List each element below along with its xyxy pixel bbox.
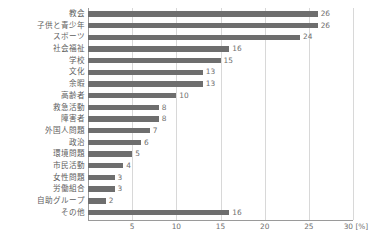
- category-label: スポーツ: [0, 31, 85, 43]
- bar-row: その他16: [0, 207, 371, 219]
- bar-container: 4: [88, 160, 131, 172]
- bar-value-label: 3: [118, 183, 123, 195]
- bar: [88, 70, 203, 75]
- bar-container: 15: [88, 55, 233, 67]
- bar: [88, 186, 115, 191]
- bar: [88, 128, 150, 133]
- x-tick-label-25: 25: [304, 222, 313, 231]
- bar: [88, 210, 229, 215]
- category-label: 自助グループ: [0, 195, 85, 207]
- category-label: 余暇: [0, 78, 85, 90]
- category-label: 学校: [0, 55, 85, 67]
- bar-value-label: 24: [303, 31, 312, 43]
- bar-value-label: 4: [126, 160, 131, 172]
- bar-container: 3: [88, 172, 122, 184]
- x-axis-line: [88, 220, 353, 221]
- category-label: 障害者: [0, 113, 85, 125]
- x-tick-label-15: 15: [216, 222, 225, 231]
- bar-container: 16: [88, 43, 242, 55]
- bar-row: 政治6: [0, 137, 371, 149]
- bar: [88, 23, 318, 28]
- bar-value-label: 3: [118, 172, 123, 184]
- bar: [88, 140, 141, 145]
- bar-value-label: 16: [232, 43, 241, 55]
- bar: [88, 105, 159, 110]
- bar-row: 外国人問題7: [0, 125, 371, 137]
- bar-value-label: 26: [321, 20, 330, 32]
- bar-rows: 教会26子供と青少年26スポーツ24社会福祉16学校15文化13余暇13高齢者1…: [0, 8, 371, 218]
- bar-row: 高齢者10: [0, 90, 371, 102]
- bar-value-label: 7: [153, 125, 158, 137]
- bar-row: 障害者8: [0, 113, 371, 125]
- bar: [88, 93, 176, 98]
- bar-container: 26: [88, 8, 330, 20]
- bar: [88, 58, 221, 63]
- bar: [88, 151, 132, 156]
- category-label: その他: [0, 207, 85, 219]
- bar-container: 13: [88, 78, 215, 90]
- category-label: 労働組合: [0, 183, 85, 195]
- bar-row: 余暇13: [0, 78, 371, 90]
- category-label: 市民活動: [0, 160, 85, 172]
- bar: [88, 163, 123, 168]
- bar-row: 社会福祉16: [0, 43, 371, 55]
- bar-value-label: 13: [206, 66, 215, 78]
- bar-container: 5: [88, 148, 140, 160]
- bar-container: 26: [88, 20, 330, 32]
- bar-row: 教会26: [0, 8, 371, 20]
- bar-container: 7: [88, 125, 158, 137]
- bar-row: 環境問題5: [0, 148, 371, 160]
- bar-value-label: 6: [144, 137, 149, 149]
- category-label: 教会: [0, 8, 85, 20]
- bar-container: 8: [88, 102, 166, 114]
- category-label: 高齢者: [0, 90, 85, 102]
- category-label: 環境問題: [0, 148, 85, 160]
- category-label: 文化: [0, 66, 85, 78]
- bar-row: 女性問題3: [0, 172, 371, 184]
- bar: [88, 175, 115, 180]
- x-axis-tick-labels: 51015202530 [%]: [0, 222, 371, 238]
- x-tick-label-30: 30 [%]: [344, 222, 369, 231]
- bar: [88, 35, 300, 40]
- bar-container: 13: [88, 66, 215, 78]
- bar-value-label: 5: [135, 148, 140, 160]
- bar: [88, 11, 318, 16]
- category-label: 子供と青少年: [0, 20, 85, 32]
- bar-value-label: 8: [162, 113, 167, 125]
- bar-container: 2: [88, 195, 113, 207]
- bar: [88, 198, 106, 203]
- bar-container: 3: [88, 183, 122, 195]
- bar-container: 8: [88, 113, 166, 125]
- bar-value-label: 8: [162, 102, 167, 114]
- bar-container: 16: [88, 207, 242, 219]
- bar-row: 学校15: [0, 55, 371, 67]
- bar-chart: 教会26子供と青少年26スポーツ24社会福祉16学校15文化13余暇13高齢者1…: [0, 0, 371, 250]
- bar-value-label: 16: [232, 207, 241, 219]
- bar-row: 労働組合3: [0, 183, 371, 195]
- category-label: 救急活動: [0, 102, 85, 114]
- bar-row: 市民活動4: [0, 160, 371, 172]
- category-label: 社会福祉: [0, 43, 85, 55]
- bar-container: 6: [88, 137, 149, 149]
- bar-row: 自助グループ2: [0, 195, 371, 207]
- bar-value-label: 2: [109, 195, 114, 207]
- bar-value-label: 13: [206, 78, 215, 90]
- x-tick-label-20: 20: [260, 222, 269, 231]
- bar-value-label: 26: [321, 8, 330, 20]
- category-label: 女性問題: [0, 172, 85, 184]
- bar-row: スポーツ24: [0, 31, 371, 43]
- bar-row: 子供と青少年26: [0, 20, 371, 32]
- plot-area: 教会26子供と青少年26スポーツ24社会福祉16学校15文化13余暇13高齢者1…: [0, 0, 371, 250]
- bar-value-label: 10: [179, 90, 188, 102]
- bar-container: 24: [88, 31, 312, 43]
- bar-row: 文化13: [0, 66, 371, 78]
- bar-value-label: 15: [224, 55, 233, 67]
- bar: [88, 116, 159, 121]
- bar-container: 10: [88, 90, 189, 102]
- category-label: 政治: [0, 137, 85, 149]
- x-tick-label-10: 10: [172, 222, 181, 231]
- bar: [88, 81, 203, 86]
- bar-row: 救急活動8: [0, 102, 371, 114]
- bar: [88, 46, 229, 51]
- category-label: 外国人問題: [0, 125, 85, 137]
